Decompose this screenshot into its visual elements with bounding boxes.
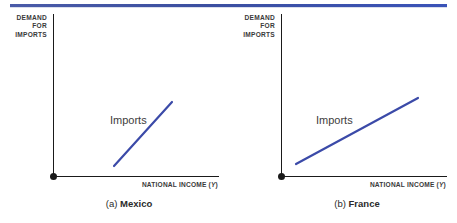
x-axis-label-text: NATIONAL INCOME ( <box>142 181 211 188</box>
x-axis-label-close: ) <box>216 181 218 188</box>
panel-caption-index-mexico: (a) <box>106 198 118 209</box>
chart-panel-france: DEMAND FOR IMPORTS Imports NATIONAL INCO… <box>228 0 456 223</box>
x-axis-label-text: NATIONAL INCOME ( <box>370 181 439 188</box>
panel-caption-france: (b) France <box>228 198 456 209</box>
panel-caption-mexico: (a) Mexico <box>0 198 228 209</box>
panel-caption-index-france: (b) <box>334 198 346 209</box>
imports-curve-mexico <box>114 102 172 166</box>
series-label-imports-mexico: Imports <box>110 114 147 126</box>
imports-line-svg-france <box>228 0 456 223</box>
x-axis-label-close: ) <box>444 181 446 188</box>
x-axis-label-france: NATIONAL INCOME (Y) <box>288 181 446 188</box>
figure-canvas: DEMAND FOR IMPORTS Imports NATIONAL INCO… <box>0 0 457 223</box>
panel-caption-name-france: France <box>349 198 380 209</box>
imports-curve-france <box>296 98 418 164</box>
series-label-imports-france: Imports <box>316 114 353 126</box>
panel-caption-name-mexico: Mexico <box>120 198 152 209</box>
x-axis-label-mexico: NATIONAL INCOME (Y) <box>60 181 218 188</box>
chart-panel-mexico: DEMAND FOR IMPORTS Imports NATIONAL INCO… <box>0 0 228 223</box>
imports-line-svg-mexico <box>0 0 228 223</box>
